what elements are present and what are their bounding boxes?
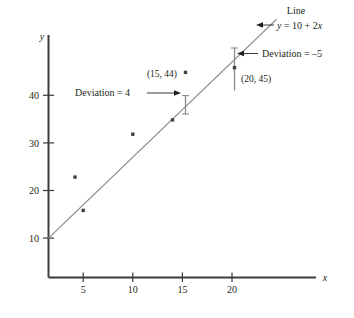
deviation-negative-label: Deviation = –5 (262, 48, 322, 59)
axes-group (49, 35, 317, 278)
line-annotation-arrowhead (256, 22, 263, 28)
y-tick-label-10: 10 (29, 233, 39, 244)
x-tick-label-15: 15 (177, 284, 187, 295)
data-point (131, 133, 134, 136)
x-axis-tick-labels: 5 10 15 20 (81, 284, 237, 295)
data-point (82, 209, 85, 212)
y-tick-label-30: 30 (29, 138, 39, 149)
y-axis-label: y (39, 31, 45, 42)
line-equation-variable: x (317, 20, 323, 31)
line-equation-body: = 10 + 2 (281, 20, 317, 31)
line-annotation-equation: y = 10 + 2x (276, 20, 323, 31)
data-point (171, 118, 174, 121)
deviation-negative-annotation-group: Deviation = –5 (237, 48, 322, 59)
point-label-20-45: (20, 45) (241, 74, 271, 85)
x-tick-label-5: 5 (81, 284, 86, 295)
y-tick-label-20: 20 (29, 185, 39, 196)
deviation-positive-label: Deviation = 4 (75, 87, 130, 98)
point-label-15-44: (15, 44) (147, 69, 177, 80)
x-tick-label-10: 10 (128, 284, 138, 295)
plot-canvas: 40 30 20 10 5 10 15 20 y x (0, 0, 354, 318)
line-annotation-title: Line (287, 5, 306, 16)
data-point (184, 71, 187, 74)
scatter-plot-figure: 40 30 20 10 5 10 15 20 y x (0, 0, 354, 318)
x-tick-label-20: 20 (227, 284, 237, 295)
data-point (73, 175, 76, 178)
deviation-positive-annotation-group: Deviation = 4 (75, 87, 181, 98)
y-tick-label-40: 40 (29, 90, 39, 101)
y-axis-tick-labels: 40 30 20 10 (29, 90, 39, 244)
x-axis-label: x (322, 272, 328, 283)
data-point (233, 66, 236, 69)
deviation-positive-arrowhead (174, 90, 181, 96)
line-annotation-group: Line y = 10 + 2x (256, 5, 323, 31)
